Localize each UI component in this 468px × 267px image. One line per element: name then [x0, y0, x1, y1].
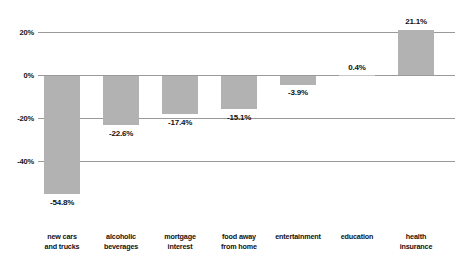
x-category-label-entertainment: entertainment	[266, 232, 330, 242]
x-category-label-education: education	[327, 232, 387, 242]
x-category-label-new-cars-and-trucks: new cars and trucks	[32, 232, 92, 251]
gridline-20	[38, 32, 455, 33]
bar-food-away-from-home[interactable]	[221, 76, 257, 109]
x-category-label-mortgage-interest: mortgage interest	[150, 232, 210, 251]
y-tick-label-0: 0%	[0, 71, 34, 80]
bar-alcoholic-beverages[interactable]	[103, 76, 139, 125]
bar-value-entertainment: -3.9%	[270, 88, 326, 97]
bar-chart: 20% 0% -20% -40% -54.8% -22.6% -17.4% -1…	[0, 0, 468, 267]
bar-health-insurance[interactable]	[398, 30, 434, 75]
bar-entertainment[interactable]	[280, 76, 316, 85]
bar-value-new-cars-and-trucks: -54.8%	[34, 198, 90, 207]
y-tick-label-20: 20%	[0, 28, 34, 37]
gridline-neg40	[38, 161, 455, 162]
bar-value-education: 0.4%	[329, 63, 385, 72]
bar-education[interactable]	[339, 75, 375, 76]
bar-value-mortgage-interest: -17.4%	[152, 118, 208, 127]
y-tick-label-neg40: -40%	[0, 157, 34, 166]
bar-value-health-insurance: 21.1%	[388, 17, 444, 26]
bar-mortgage-interest[interactable]	[162, 76, 198, 114]
y-tick-label-neg20: -20%	[0, 114, 34, 123]
bar-value-food-away-from-home: -15.1%	[211, 113, 267, 122]
bar-value-alcoholic-beverages: -22.6%	[93, 129, 149, 138]
x-category-label-alcoholic-beverages: alcoholic beverages	[91, 232, 151, 251]
x-category-label-health-insurance: health insurance	[386, 232, 446, 251]
bar-new-cars-and-trucks[interactable]	[44, 76, 80, 194]
x-category-label-food-away-from-home: food away from home	[209, 232, 269, 251]
